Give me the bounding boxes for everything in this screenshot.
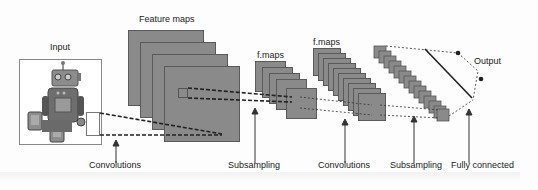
stage-label-fully-connected: Fully connected <box>451 160 514 170</box>
stage-label-subsampling-2: Subsampling <box>390 160 442 170</box>
output-node <box>456 51 461 56</box>
cnn-diagram: Input Feature maps f.maps f.maps <box>0 0 538 190</box>
stage-label-subsampling-1: Subsampling <box>228 160 280 170</box>
output-node <box>479 77 484 82</box>
stage-label-convolutions-1: Convolutions <box>89 160 141 170</box>
output-label: Output <box>474 56 501 66</box>
stage-label-convolutions-2: Convolutions <box>318 160 370 170</box>
